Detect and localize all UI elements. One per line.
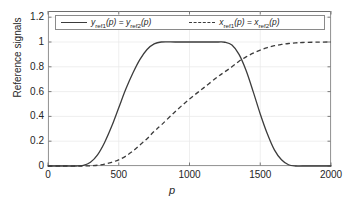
gridlines [48, 11, 331, 166]
x-tick-label: 1000 [160, 169, 220, 180]
legend-label-x-ref: xref1(p) = xref2(p) [219, 17, 279, 29]
y-tick-label: 0.2 [0, 135, 44, 146]
y-axis-label: Reference signals [12, 3, 23, 113]
x-tick-label: 0 [18, 169, 78, 180]
x-tick-label: 2000 [301, 169, 344, 180]
x-tick-label: 1500 [230, 169, 290, 180]
legend-line-solid-icon [61, 22, 87, 23]
legend-entry-y-ref: yref1(p) = yref2(p) [61, 17, 151, 29]
legend-line-dashed-icon [189, 22, 215, 23]
x-axis-label: p [0, 184, 344, 196]
legend-label-y-ref: yref1(p) = yref2(p) [91, 17, 151, 29]
x-tick-label: 500 [89, 169, 149, 180]
legend-entry-x-ref: xref1(p) = xref2(p) [189, 17, 279, 29]
legend: yref1(p) = yref2(p) xref1(p) = xref2(p) [55, 15, 325, 30]
figure-canvas: 00.20.40.60.811.2 0500100015002000 Refer… [0, 0, 344, 205]
